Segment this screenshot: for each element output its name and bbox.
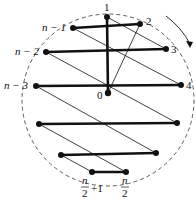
label-0: 0 bbox=[97, 89, 103, 101]
circle-pairing-diagram: 1 2 3 4 0 n − 1 n − 2 n − 3 n 2 +1 n 2 bbox=[0, 0, 196, 205]
vertex-n-1 bbox=[70, 25, 76, 31]
vertex-4 bbox=[178, 82, 184, 88]
vertex-n-2 bbox=[43, 49, 49, 55]
label-n-half: n 2 bbox=[121, 174, 129, 199]
vertex-r6 bbox=[153, 150, 159, 156]
vertex-2 bbox=[137, 21, 143, 27]
vertex-n-half-plus-1 bbox=[89, 169, 95, 175]
vertex-3 bbox=[163, 46, 169, 52]
svg-text:2: 2 bbox=[82, 187, 88, 199]
label-n-2: n − 2 bbox=[15, 45, 39, 57]
vertex-l6 bbox=[58, 152, 64, 158]
label-n-1: n − 1 bbox=[42, 21, 66, 33]
vertex-n-3 bbox=[33, 83, 39, 89]
svg-text:n: n bbox=[122, 174, 128, 186]
vertex-l5 bbox=[36, 121, 42, 127]
vertex-r5 bbox=[174, 120, 180, 126]
label-n-3: n − 3 bbox=[4, 79, 28, 91]
label-n-half-plus-1: n 2 +1 bbox=[81, 174, 103, 199]
label-3: 3 bbox=[171, 43, 177, 55]
vertex-1 bbox=[104, 14, 110, 20]
svg-text:n: n bbox=[82, 174, 88, 186]
label-1: 1 bbox=[104, 1, 110, 13]
svg-text:2: 2 bbox=[122, 187, 128, 199]
svg-text:+1: +1 bbox=[91, 182, 103, 194]
vertex-0 bbox=[105, 90, 111, 96]
label-2: 2 bbox=[146, 15, 152, 27]
label-4: 4 bbox=[186, 79, 192, 91]
